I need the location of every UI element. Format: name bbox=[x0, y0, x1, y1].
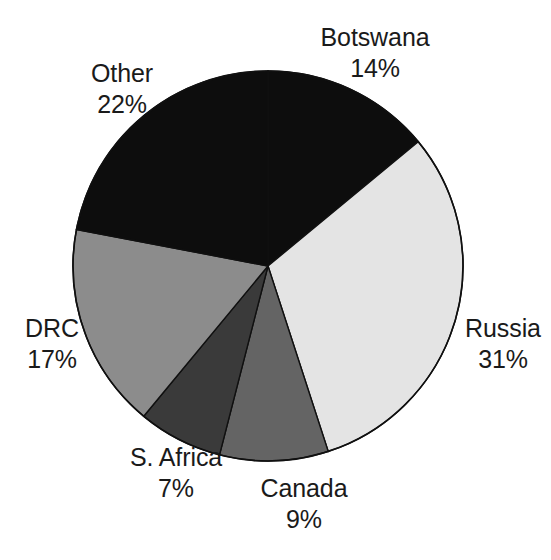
slice-label-russia: Russia 31% bbox=[455, 313, 551, 374]
slice-label-drc: DRC 17% bbox=[4, 313, 100, 374]
slice-label-south-africa-name: S. Africa bbox=[96, 442, 256, 473]
pie-chart: Botswana 14% Russia 31% Canada 9% S. Afr… bbox=[0, 0, 551, 560]
slice-label-other-value: 22% bbox=[42, 89, 202, 120]
slice-label-botswana-value: 14% bbox=[280, 53, 470, 84]
slice-label-russia-name: Russia bbox=[455, 313, 551, 344]
slice-label-russia-value: 31% bbox=[455, 344, 551, 375]
slice-label-drc-value: 17% bbox=[4, 344, 100, 375]
pie-slices-group bbox=[73, 71, 463, 461]
slice-label-other: Other 22% bbox=[42, 58, 202, 119]
slice-label-south-africa: S. Africa 7% bbox=[96, 442, 256, 503]
slice-label-drc-name: DRC bbox=[4, 313, 100, 344]
slice-label-botswana: Botswana 14% bbox=[280, 22, 470, 83]
slice-label-other-name: Other bbox=[42, 58, 202, 89]
slice-label-botswana-name: Botswana bbox=[280, 22, 470, 53]
slice-label-south-africa-value: 7% bbox=[96, 473, 256, 504]
slice-label-canada-value: 9% bbox=[219, 504, 389, 535]
